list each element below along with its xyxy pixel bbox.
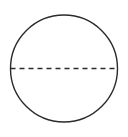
figure-background — [0, 0, 128, 137]
circle-diameter-diagram — [0, 0, 128, 137]
figure-container — [0, 0, 128, 137]
